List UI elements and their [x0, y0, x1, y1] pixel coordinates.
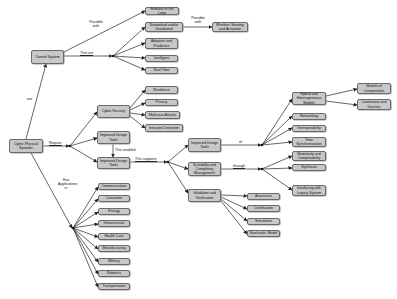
node-networked-distributed[interactable]: Networked and/or Distributed — [145, 22, 183, 32]
node-intelligent[interactable]: Intelligent — [145, 55, 178, 62]
node-energy[interactable]: Energy — [98, 208, 130, 215]
node-assurance[interactable]: Assurance — [247, 193, 280, 200]
concept-map: are Possible with That are Possible with… — [0, 0, 397, 299]
node-health-care[interactable]: Health Care — [98, 233, 130, 240]
node-improved-design-tools-2[interactable]: Improved Design Tools — [97, 157, 130, 169]
node-manufacturing[interactable]: Manufacturing — [98, 245, 130, 252]
edge-label-of: of — [239, 140, 242, 144]
node-hybrid-heterogeneous[interactable]: Hybrid and Heterogeneous Models — [292, 92, 326, 105]
node-cyber-security[interactable]: Cyber Security — [97, 105, 130, 118]
node-intrusion-detection[interactable]: Intrusion Detection — [145, 124, 183, 132]
node-control-system[interactable]: Control System — [31, 50, 64, 64]
node-interfacing-legacy[interactable]: Interfacing with Legacy System — [292, 185, 326, 196]
edge-label-this-supports: This supports — [135, 157, 157, 162]
node-simulation[interactable]: Simulation — [247, 218, 280, 225]
edge-label-possible-with-2: Possible with — [190, 16, 206, 24]
node-transportation[interactable]: Transportation — [98, 283, 130, 290]
node-humans-in-the-loop[interactable]: Humans in the Loop — [145, 7, 179, 15]
node-continuous-discrete[interactable]: Continuous and Discrete — [357, 99, 391, 110]
node-scalability[interactable]: Scalability and Complexity Management — [188, 162, 221, 176]
node-wireless-sensing[interactable]: Wireless Sensing and Actuation — [212, 22, 248, 32]
node-privacy[interactable]: Privacy — [145, 99, 178, 106]
edge-label-through: through — [233, 164, 245, 169]
node-communication[interactable]: Communication — [98, 183, 130, 190]
edge-label-are: are — [27, 97, 32, 101]
node-synthesis[interactable]: Synthesis — [292, 164, 326, 171]
node-improved-design-tools-1[interactable]: Improved Design Tools — [97, 131, 130, 144]
edge-label-that-are: That are — [80, 51, 93, 56]
node-time-synchronization[interactable]: Time Synchronization — [292, 137, 326, 147]
node-validation-verification[interactable]: Validation and Verification — [188, 189, 221, 202]
node-consumer[interactable]: Consumer — [98, 195, 130, 202]
node-certification[interactable]: Certification — [247, 205, 280, 212]
node-robotics[interactable]: Robotics — [98, 270, 130, 277]
node-models-of-computation[interactable]: Models of Computation — [357, 83, 391, 94]
node-modularity-composability[interactable]: Modularity and Composability — [292, 151, 326, 161]
node-cyber-physical-systems[interactable]: Cyber-Physical Systems — [9, 139, 43, 153]
node-adaptive-predictive[interactable]: Adaptive and Predictive — [145, 38, 178, 49]
edge-label-require: Require — [49, 141, 62, 146]
node-infrastructure[interactable]: Infrastructure — [98, 220, 130, 227]
edge-label-has-applications-in: Has Applications in — [58, 178, 74, 191]
edge-label-possible-with-1: Possible with — [88, 20, 104, 28]
node-military[interactable]: Military — [98, 258, 130, 265]
node-networking[interactable]: Networking — [292, 113, 326, 120]
node-malicious-attacks[interactable]: Malicious Attacks — [145, 111, 180, 119]
node-resilience[interactable]: Resilience — [145, 86, 178, 94]
node-real-time[interactable]: Real Time — [145, 67, 178, 74]
node-interoperability[interactable]: Interoperability — [292, 125, 326, 132]
node-improved-design-tools-3[interactable]: Improved Design Tools — [188, 138, 221, 152]
edge-label-this-enabled: This enabled — [115, 148, 136, 152]
node-stochastic-model[interactable]: Stochastic Model — [247, 230, 280, 237]
